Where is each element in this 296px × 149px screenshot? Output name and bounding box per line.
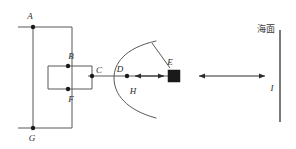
label-E: E (166, 57, 173, 67)
label-G: G (29, 133, 36, 143)
reflector-arc (114, 41, 156, 118)
label-D: D (116, 64, 124, 74)
node-C (90, 74, 94, 78)
node-G (31, 126, 35, 130)
label-H: H (129, 86, 137, 96)
node-B (66, 64, 70, 68)
physics-diagram-svg: A B C D E F G H I 海面 (0, 0, 296, 149)
label-F: F (67, 94, 74, 104)
outer-loop-wires (18, 27, 72, 128)
label-sea-surface: 海面 (257, 23, 275, 34)
node-F (66, 87, 70, 91)
label-A: A (26, 11, 33, 21)
figure-root: A B C D E F G H I 海面 (0, 0, 296, 149)
label-C: C (96, 65, 103, 75)
label-I: I (270, 83, 275, 93)
label-B: B (68, 51, 74, 61)
inner-loop-wires (48, 66, 92, 89)
node-A (31, 25, 35, 29)
node-D (125, 74, 129, 78)
block-E-square (168, 70, 180, 82)
